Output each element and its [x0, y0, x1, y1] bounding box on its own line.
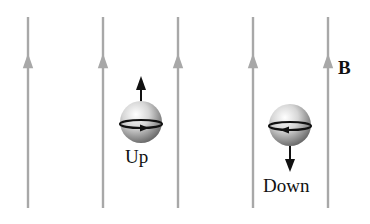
field-line-1: [25, 17, 32, 208]
arrow-up-icon: [25, 57, 32, 67]
arrow-up-icon: [250, 57, 257, 67]
arrow-up-icon: [175, 57, 182, 67]
spin-up-arrow-icon: [136, 76, 146, 90]
field-line-5: [325, 17, 332, 208]
field-line-4: [250, 17, 257, 208]
arrow-up-icon: [100, 57, 107, 67]
spin-diagram: B Up Down: [0, 0, 370, 224]
spin-down-arrow-icon: [285, 159, 295, 172]
field-line-2: [100, 17, 107, 208]
label-up: Up: [125, 146, 148, 168]
label-down: Down: [263, 175, 309, 197]
field-label-B: B: [338, 57, 351, 79]
particle-spin-up: [120, 76, 162, 143]
particle-spin-down: [269, 104, 311, 172]
arrow-up-icon: [325, 57, 332, 67]
field-line-3: [175, 17, 182, 208]
diagram-canvas: [0, 0, 370, 224]
